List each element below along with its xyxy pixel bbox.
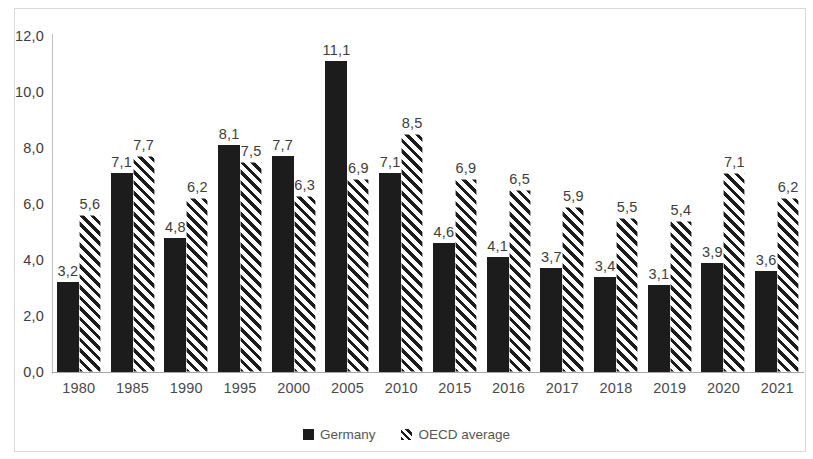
bar-wrapper: 7,5 [240, 36, 262, 372]
bar-wrapper: 5,4 [670, 36, 692, 372]
bar-value-label: 7,7 [272, 137, 293, 153]
y-axis-tick-label: 12,0 [15, 28, 44, 44]
x-axis-tick-label: 1985 [106, 380, 160, 396]
legend-item-label: OECD average [418, 427, 510, 442]
bar-oecd-average[interactable]: 5,9 [562, 207, 584, 372]
bar-wrapper: 6,2 [186, 36, 208, 372]
bar-wrapper: 11,1 [325, 36, 347, 372]
bar-germany[interactable]: 4,1 [487, 257, 509, 372]
y-axis-labels: 0,02,04,06,08,010,012,0 [0, 0, 44, 459]
bar-oecd-average[interactable]: 5,5 [616, 218, 638, 372]
bar-germany[interactable]: 7,1 [379, 173, 401, 372]
bar-wrapper: 3,6 [755, 36, 777, 372]
bar-value-label: 6,2 [778, 179, 799, 195]
bar-oecd-average[interactable]: 8,5 [401, 134, 423, 372]
x-axis-tick-label: 2005 [321, 380, 375, 396]
bar-oecd-average[interactable]: 6,2 [777, 198, 799, 372]
bar-wrapper: 6,2 [777, 36, 799, 372]
bar-group: 4,16,5 [482, 36, 536, 372]
bar-group: 3,15,4 [643, 36, 697, 372]
bar-oecd-average[interactable]: 5,6 [79, 215, 101, 372]
legend-item[interactable]: OECD average [401, 427, 510, 442]
bar-value-label: 3,1 [648, 266, 669, 282]
bar-oecd-average[interactable]: 6,9 [347, 179, 369, 372]
bar-wrapper: 7,1 [379, 36, 401, 372]
x-axis-tick-label: 2000 [267, 380, 321, 396]
bar-wrapper: 3,4 [594, 36, 616, 372]
bar-oecd-average[interactable]: 7,1 [723, 173, 745, 372]
legend-item-label: Germany [320, 427, 376, 442]
bar-value-label: 3,9 [702, 244, 723, 260]
x-axis-line [52, 372, 804, 373]
bar-group: 4,66,9 [428, 36, 482, 372]
bar-value-label: 8,5 [402, 115, 423, 131]
bar-wrapper: 5,5 [616, 36, 638, 372]
bar-wrapper: 5,6 [79, 36, 101, 372]
bar-wrapper: 6,5 [509, 36, 531, 372]
bar-germany[interactable]: 4,6 [433, 243, 455, 372]
bar-value-label: 7,1 [380, 154, 401, 170]
bar-germany[interactable]: 4,8 [164, 238, 186, 372]
bar-value-label: 7,7 [133, 137, 154, 153]
bar-germany[interactable]: 3,4 [594, 277, 616, 372]
x-axis-tick-label: 2015 [428, 380, 482, 396]
bar-value-label: 4,1 [487, 238, 508, 254]
y-axis-tick-label: 2,0 [23, 308, 44, 324]
x-axis-tick-label: 2020 [697, 380, 751, 396]
bar-oecd-average[interactable]: 6,5 [509, 190, 531, 372]
bar-oecd-average[interactable]: 7,7 [133, 156, 155, 372]
bar-group: 7,18,5 [374, 36, 428, 372]
x-axis-tick-label: 2017 [535, 380, 589, 396]
bar-oecd-average[interactable]: 5,4 [670, 221, 692, 372]
bar-group: 3,97,1 [697, 36, 751, 372]
bar-value-label: 5,6 [79, 196, 100, 212]
bar-wrapper: 6,9 [455, 36, 477, 372]
bar-wrapper: 7,7 [272, 36, 294, 372]
bar-value-label: 7,1 [724, 154, 745, 170]
bar-group: 7,76,3 [267, 36, 321, 372]
bar-oecd-average[interactable]: 7,5 [240, 162, 262, 372]
bar-germany[interactable]: 3,7 [540, 268, 562, 372]
bar-germany[interactable]: 8,1 [218, 145, 240, 372]
bar-value-label: 5,9 [563, 188, 584, 204]
bar-wrapper: 6,3 [294, 36, 316, 372]
bar-value-label: 3,7 [541, 249, 562, 265]
bar-wrapper: 4,1 [487, 36, 509, 372]
bar-oecd-average[interactable]: 6,3 [294, 196, 316, 372]
bar-value-label: 3,6 [756, 252, 777, 268]
x-axis-labels: 1980198519901995200020052010201520162017… [52, 380, 804, 396]
bar-value-label: 4,6 [434, 224, 455, 240]
legend-item[interactable]: Germany [303, 427, 376, 442]
bar-wrapper: 3,9 [701, 36, 723, 372]
bar-germany[interactable]: 7,1 [111, 173, 133, 372]
bar-wrapper: 7,7 [133, 36, 155, 372]
bar-group: 11,16,9 [321, 36, 375, 372]
x-axis-tick-label: 1980 [52, 380, 106, 396]
bar-group: 3,45,5 [589, 36, 643, 372]
bar-wrapper: 8,5 [401, 36, 423, 372]
bar-wrapper: 5,9 [562, 36, 584, 372]
x-axis-tick-label: 2018 [589, 380, 643, 396]
bar-group: 8,17,5 [213, 36, 267, 372]
bar-germany[interactable]: 7,7 [272, 156, 294, 372]
bar-germany[interactable]: 3,2 [57, 282, 79, 372]
bar-value-label: 6,2 [187, 179, 208, 195]
bar-groups: 3,25,67,17,74,86,28,17,57,76,311,16,97,1… [52, 36, 804, 372]
bar-group: 3,75,9 [535, 36, 589, 372]
x-axis-tick-label: 2016 [482, 380, 536, 396]
x-axis-tick-label: 2021 [750, 380, 804, 396]
bar-oecd-average[interactable]: 6,9 [455, 179, 477, 372]
bar-wrapper: 8,1 [218, 36, 240, 372]
bar-wrapper: 6,9 [347, 36, 369, 372]
bar-oecd-average[interactable]: 6,2 [186, 198, 208, 372]
bar-value-label: 6,3 [294, 177, 315, 193]
x-axis-tick-label: 2010 [374, 380, 428, 396]
x-axis-tick-label: 1995 [213, 380, 267, 396]
y-axis-tick-label: 8,0 [23, 140, 44, 156]
bar-germany[interactable]: 3,6 [755, 271, 777, 372]
y-axis-tick-label: 4,0 [23, 252, 44, 268]
bar-germany[interactable]: 3,1 [648, 285, 670, 372]
chart-container: 0,02,04,06,08,010,012,0 3,25,67,17,74,86… [0, 0, 813, 459]
bar-germany[interactable]: 3,9 [701, 263, 723, 372]
bar-germany[interactable]: 11,1 [325, 61, 347, 372]
